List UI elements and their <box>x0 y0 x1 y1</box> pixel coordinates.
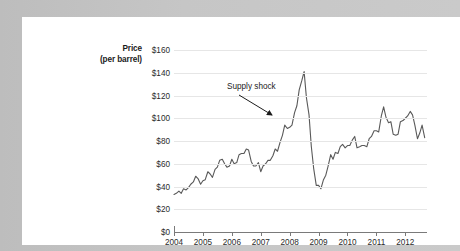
x-tick-label: 2012 <box>396 238 414 247</box>
x-tick-label: 2007 <box>252 238 270 247</box>
y-tick-label: $20 <box>156 205 170 214</box>
page-background: Price (per barrel) $0$20$40$60$80$100$12… <box>0 0 460 251</box>
x-tick-mark <box>174 232 175 236</box>
oil-price-chart: Price (per barrel) $0$20$40$60$80$100$12… <box>22 17 460 245</box>
y-tick-label: $120 <box>152 91 170 100</box>
y-axis-title: Price (per barrel) <box>32 44 142 65</box>
x-tick-mark <box>405 232 406 236</box>
x-tick-mark <box>376 232 377 236</box>
y-tick-label: $100 <box>152 114 170 123</box>
y-gridline <box>174 141 427 142</box>
y-tick-label: $60 <box>156 159 170 168</box>
y-gridline <box>174 164 427 165</box>
x-tick-mark <box>319 232 320 236</box>
x-tick-label: 2004 <box>165 238 183 247</box>
x-tick-mark <box>203 232 204 236</box>
x-tick-label: 2011 <box>368 238 386 247</box>
y-tick-label: $140 <box>152 68 170 77</box>
x-tick-mark <box>232 232 233 236</box>
x-tick-mark <box>261 232 262 236</box>
y-gridline <box>174 50 427 51</box>
y-tick-label: $0 <box>161 228 170 237</box>
x-tick-label: 2010 <box>338 238 356 247</box>
x-tick-label: 2005 <box>194 238 212 247</box>
chart-card: Price (per barrel) $0$20$40$60$80$100$12… <box>22 17 460 245</box>
x-tick-label: 2008 <box>281 238 299 247</box>
y-gridline <box>174 232 427 233</box>
y-tick-label: $160 <box>152 46 170 55</box>
y-axis-title-line1: Price <box>122 44 142 53</box>
x-tick-label: 2009 <box>309 238 327 247</box>
x-tick-mark <box>290 232 291 236</box>
y-tick-label: $80 <box>156 137 170 146</box>
y-axis-title-line2: (per barrel) <box>32 55 142 66</box>
x-tick-label: 2006 <box>223 238 241 247</box>
y-gridline <box>174 73 427 74</box>
y-gridline <box>174 187 427 188</box>
y-gridline <box>174 209 427 210</box>
x-tick-mark <box>347 232 348 236</box>
supply-shock-arrow-icon <box>217 77 307 127</box>
y-tick-label: $40 <box>156 182 170 191</box>
